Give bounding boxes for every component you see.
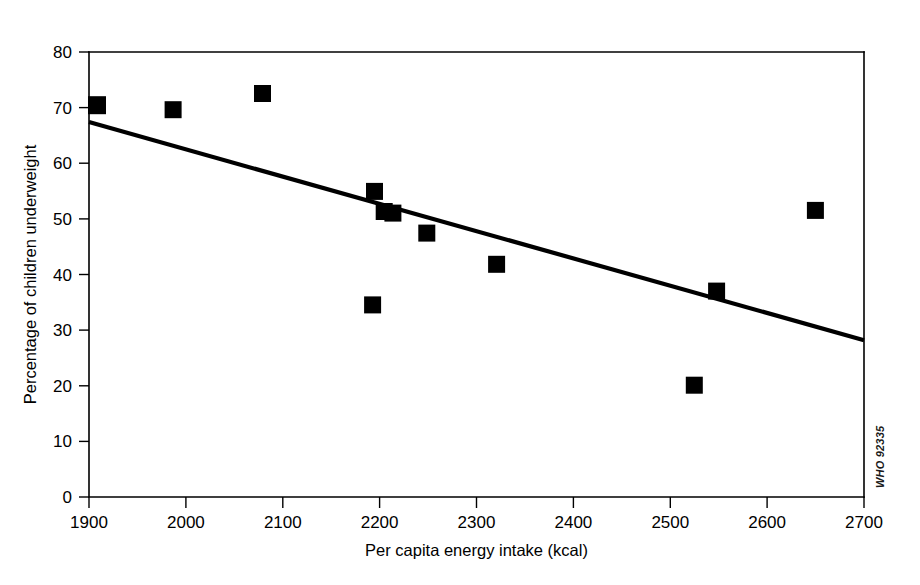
data-point-marker [384,205,401,222]
y-tick-label: 10 [53,432,72,451]
x-tick-label: 2100 [264,513,302,532]
y-axis-tick-labels: 0 10 20 30 40 50 60 70 80 [53,43,72,507]
data-points [88,85,824,394]
axis-frame [89,52,864,497]
x-tick-label: 2700 [845,513,883,532]
x-tick-label: 1900 [70,513,108,532]
y-tick-label: 0 [63,488,72,507]
chart-figure: 0 10 20 30 40 50 60 70 80 1900 2000 210 [0,0,920,585]
x-axis-title: Per capita energy intake (kcal) [365,541,588,559]
x-tick-label: 2400 [554,513,592,532]
y-tick-label: 20 [53,377,72,396]
y-tick-label: 60 [53,154,72,173]
y-tick-label: 50 [53,210,72,229]
who-watermark: WHO 92335 [874,425,886,488]
data-point-marker [88,96,106,114]
y-tick-label: 70 [53,99,72,118]
x-axis-ticks [89,497,864,508]
data-point-marker [488,256,505,273]
data-point-marker [254,85,271,102]
x-tick-label: 2600 [748,513,786,532]
data-point-marker [364,296,381,313]
data-point-marker [165,101,182,118]
scatter-plot-svg: 0 10 20 30 40 50 60 70 80 1900 2000 210 [0,0,920,585]
data-point-marker [418,225,435,242]
x-tick-label: 2000 [167,513,205,532]
y-axis-title: Percentage of children underweight [21,144,39,404]
y-tick-label: 30 [53,321,72,340]
y-axis-ticks [79,52,89,497]
x-tick-label: 2500 [651,513,689,532]
x-tick-label: 2300 [458,513,496,532]
x-tick-label: 2200 [361,513,399,532]
data-point-marker [686,377,703,394]
data-point-marker [366,183,383,200]
data-point-marker [807,202,824,219]
x-axis-tick-labels: 1900 2000 2100 2200 2300 2400 2500 2600 … [70,513,883,532]
trend-line [89,122,864,340]
y-tick-label: 40 [53,266,72,285]
y-tick-label: 80 [53,43,72,62]
data-point-marker [708,283,725,300]
